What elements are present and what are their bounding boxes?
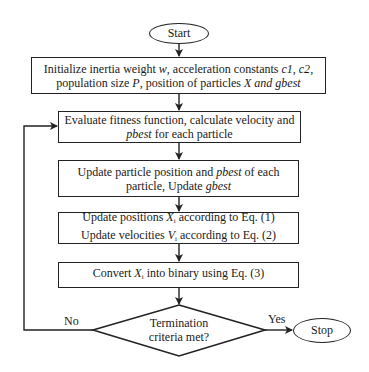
- stop-node: Stop: [293, 318, 351, 343]
- yes-label: Yes: [268, 312, 285, 327]
- update-pos-line: Update positions Xi according to Eq. (1): [82, 210, 274, 228]
- decision-line-1: Termination: [129, 316, 229, 330]
- update-vel-line: Update velocities Vi according to Eq. (2…: [81, 228, 276, 246]
- decision-node: Termination criteria met?: [129, 316, 229, 344]
- init-line-1: Initialize inertia weight w, acceleratio…: [44, 62, 313, 76]
- stop-label: Stop: [311, 323, 333, 338]
- no-label: No: [64, 314, 79, 329]
- start-node: Start: [149, 23, 209, 44]
- decision-line-2: criteria met?: [129, 330, 229, 344]
- evaluate-line-1: Evaluate fitness function, calculate vel…: [65, 113, 295, 127]
- init-node: Initialize inertia weight w, acceleratio…: [31, 57, 326, 94]
- convert-node: Convert Xi into binary using Eq. (3): [58, 262, 299, 288]
- update-particle-line-2: particle, Update gbest: [126, 179, 231, 193]
- update-particle-line-1: Update particle position and pbest of ea…: [78, 165, 280, 179]
- convert-line: Convert Xi into binary using Eq. (3): [93, 266, 265, 284]
- update-particle-node: Update particle position and pbest of ea…: [58, 160, 299, 197]
- evaluate-node: Evaluate fitness function, calculate vel…: [58, 111, 301, 143]
- update-pos-vel-node: Update positions Xi according to Eq. (1)…: [58, 212, 299, 244]
- evaluate-line-2: pbest for each particle: [126, 127, 232, 141]
- start-label: Start: [168, 26, 191, 41]
- init-line-2: population size P, position of particles…: [56, 76, 300, 90]
